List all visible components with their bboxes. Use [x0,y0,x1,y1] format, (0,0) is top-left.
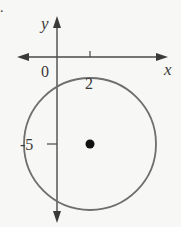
x-tick-label: 2 [85,75,93,92]
origin-label: 0 [41,63,49,80]
center-point [86,140,95,149]
x-axis-left-arrow-icon [17,53,29,61]
y-tick-label: -5 [20,136,33,153]
y-axis-down-arrow-icon [53,211,61,223]
problem-marker: . [0,0,4,15]
y-axis-label: y [39,14,49,33]
x-axis-label: x [163,60,172,79]
y-axis-up-arrow-icon [53,16,61,28]
circle-graph: . y x 0 2 -5 [0,0,181,227]
